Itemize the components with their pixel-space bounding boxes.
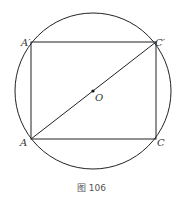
label-a: A: [19, 137, 27, 148]
label-a-prime: A′: [20, 37, 31, 48]
figure-caption: 图 106: [77, 183, 106, 193]
label-c: C: [157, 137, 165, 148]
geometry-figure: A′ C′ A C O 图 106: [0, 0, 180, 198]
label-o: O: [95, 92, 103, 103]
label-c-prime: C′: [155, 37, 166, 48]
